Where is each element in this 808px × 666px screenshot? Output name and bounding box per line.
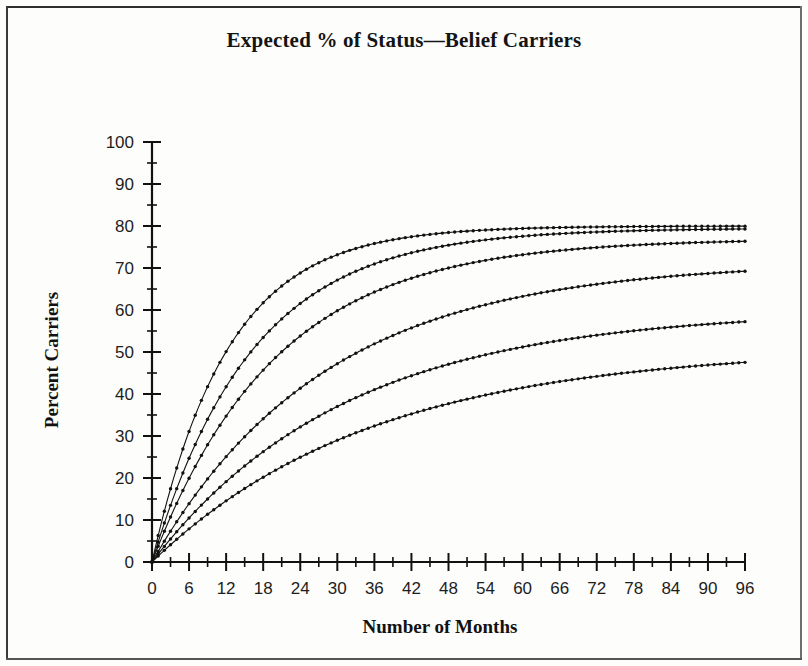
- series-marker: [527, 252, 530, 255]
- series-marker: [305, 382, 308, 385]
- x-tick-label: 54: [476, 579, 495, 598]
- series-marker: [280, 350, 283, 353]
- series-marker: [187, 430, 190, 433]
- series-marker: [243, 464, 246, 467]
- series-marker: [385, 420, 388, 423]
- series-marker: [367, 243, 370, 246]
- series-marker: [638, 229, 641, 232]
- series-marker: [385, 285, 388, 288]
- series-marker: [373, 262, 376, 265]
- series-marker: [397, 416, 400, 419]
- series-marker: [558, 380, 561, 383]
- series-marker: [706, 240, 709, 243]
- series-marker: [731, 224, 734, 227]
- series-marker: [601, 245, 604, 248]
- series-marker: [577, 225, 580, 228]
- series-marker: [206, 385, 209, 388]
- page-canvas: Expected % of Status—Belief Carriers 010…: [0, 0, 808, 666]
- series-marker: [336, 439, 339, 442]
- series-marker: [465, 262, 468, 265]
- series-marker: [644, 243, 647, 246]
- series-marker: [416, 250, 419, 253]
- series-marker: [700, 323, 703, 326]
- series-marker: [200, 503, 203, 506]
- series-marker: [570, 286, 573, 289]
- x-axis-tick-labels: 06121824303642485460667278849096: [147, 579, 754, 598]
- series-marker: [447, 243, 450, 246]
- y-tick-label: 30: [115, 427, 134, 446]
- series-marker: [663, 275, 666, 278]
- series-line: [152, 362, 745, 562]
- series-marker: [231, 376, 234, 379]
- series-marker: [391, 418, 394, 421]
- series-marker: [181, 511, 184, 514]
- series-marker: [620, 244, 623, 247]
- series-marker: [261, 450, 264, 453]
- series-marker: [354, 352, 357, 355]
- series-marker: [675, 228, 678, 231]
- series-marker: [305, 452, 308, 455]
- series-marker: [286, 396, 289, 399]
- series-marker: [669, 325, 672, 328]
- series-marker: [163, 521, 166, 524]
- chart-series-group: [150, 224, 746, 563]
- series-marker: [354, 396, 357, 399]
- series-marker: [521, 234, 524, 237]
- series-marker: [632, 329, 635, 332]
- series-marker: [626, 371, 629, 374]
- series-marker: [200, 517, 203, 520]
- series-marker: [527, 234, 530, 237]
- series-marker: [558, 232, 561, 235]
- series-marker: [552, 249, 555, 252]
- series-marker: [422, 273, 425, 276]
- series-marker: [299, 302, 302, 305]
- series-marker: [682, 228, 685, 231]
- series-marker: [194, 493, 197, 496]
- series-marker: [638, 370, 641, 373]
- series-marker: [299, 425, 302, 428]
- series-marker: [348, 434, 351, 437]
- series-marker: [725, 224, 728, 227]
- series-marker: [533, 251, 536, 254]
- series-marker: [379, 240, 382, 243]
- series-marker: [224, 480, 227, 483]
- series-marker: [731, 240, 734, 243]
- series-marker: [360, 393, 363, 396]
- y-tick-label: 100: [106, 133, 134, 152]
- series-marker: [539, 291, 542, 294]
- series-marker: [286, 462, 289, 465]
- series-marker: [175, 520, 178, 523]
- series-marker: [589, 283, 592, 286]
- series-marker: [181, 471, 184, 474]
- series-marker: [404, 329, 407, 332]
- series-marker: [533, 226, 536, 229]
- series-marker: [323, 411, 326, 414]
- series-marker: [397, 378, 400, 381]
- series-marker: [317, 261, 320, 264]
- series-marker: [200, 454, 203, 457]
- series-marker: [502, 236, 505, 239]
- series-marker: [311, 378, 314, 381]
- series-marker: [478, 260, 481, 263]
- y-axis-title: Percent Carriers: [41, 292, 62, 428]
- series-marker: [447, 402, 450, 405]
- series-marker: [644, 369, 647, 372]
- series-marker: [428, 368, 431, 371]
- y-tick-label: 40: [115, 385, 134, 404]
- series-marker: [459, 230, 462, 233]
- series-marker: [410, 374, 413, 377]
- series-marker: [472, 396, 475, 399]
- series-marker: [663, 326, 666, 329]
- series-marker: [465, 229, 468, 232]
- series-marker: [459, 241, 462, 244]
- series-marker: [187, 476, 190, 479]
- series-marker: [243, 435, 246, 438]
- series-marker: [292, 391, 295, 394]
- x-tick-label: 96: [736, 579, 755, 598]
- series-marker: [453, 311, 456, 314]
- series-marker: [224, 414, 227, 417]
- series-marker: [323, 370, 326, 373]
- series-marker: [527, 385, 530, 388]
- series-marker: [626, 244, 629, 247]
- series-marker: [348, 249, 351, 252]
